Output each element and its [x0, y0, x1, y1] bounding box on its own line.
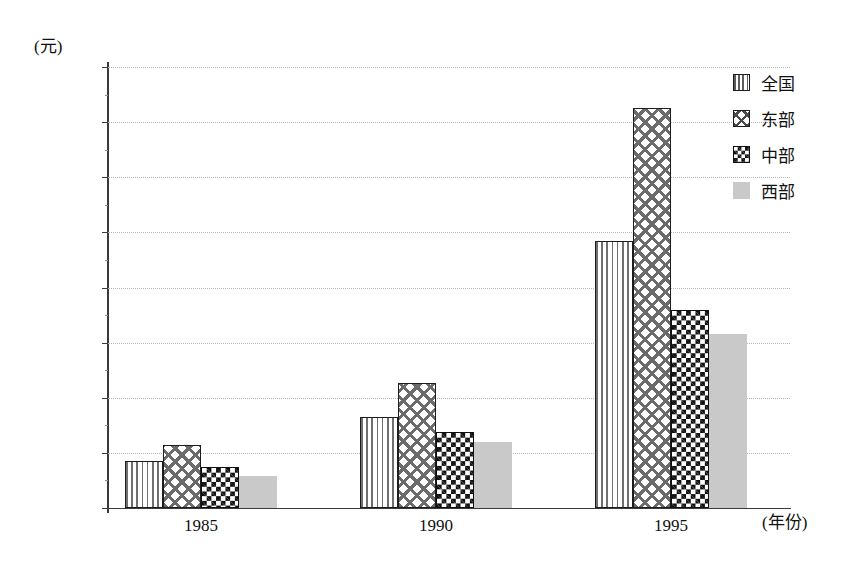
legend-item-东部: 东部 [733, 100, 853, 136]
gridline [108, 67, 790, 69]
x-axis-tick-label: 1990 [361, 516, 511, 536]
y-axis-minor-tick [105, 260, 109, 261]
y-axis-tick [102, 67, 108, 68]
y-axis-minor-tick [105, 95, 109, 96]
bar-东部-1990 [398, 383, 436, 508]
bar-东部-1995 [633, 108, 671, 508]
y-axis-minor-tick [105, 480, 109, 481]
legend-swatch-icon [733, 146, 750, 163]
bar-全国-1985 [125, 461, 163, 508]
legend-swatch-icon [733, 182, 750, 199]
legend-item-label: 全国 [761, 70, 795, 95]
gridline [108, 122, 790, 124]
plot-area: 010002000300040005000600070008000 [108, 67, 790, 508]
bar-chart: (元) (年份) 0100020003000400050006000700080… [0, 0, 856, 568]
legend-item-西部: 西部 [733, 172, 853, 208]
bar-西部-1995 [709, 334, 747, 508]
y-axis-tick [102, 453, 108, 454]
bar-西部-1990 [474, 442, 512, 508]
x-axis-tick-label: 1985 [126, 516, 276, 536]
y-axis-minor-tick [105, 150, 109, 151]
y-axis-tick [102, 288, 108, 289]
y-axis-minor-tick [105, 370, 109, 371]
y-axis-minor-tick [105, 425, 109, 426]
x-axis-tick-label: 1995 [596, 516, 746, 536]
y-axis-tick [102, 398, 108, 399]
bar-中部-1995 [671, 310, 709, 508]
bar-中部-1985 [201, 467, 239, 508]
bar-全国-1990 [360, 417, 398, 509]
legend-item-label: 中部 [761, 142, 795, 167]
legend-item-中部: 中部 [733, 136, 853, 172]
y-axis-unit-label: (元) [34, 32, 62, 57]
y-axis-minor-tick [105, 205, 109, 206]
gridline [108, 288, 790, 290]
bar-东部-1985 [163, 445, 201, 508]
y-axis-minor-tick [105, 315, 109, 316]
y-axis-tick [102, 232, 108, 233]
chart-legend: 全国东部中部西部 [733, 64, 853, 208]
y-axis-tick [102, 122, 108, 123]
x-axis-unit-label: (年份) [762, 508, 807, 533]
bar-全国-1995 [595, 241, 633, 508]
bar-西部-1985 [239, 476, 277, 508]
bar-中部-1990 [436, 432, 474, 508]
legend-item-label: 东部 [761, 106, 795, 131]
legend-swatch-icon [733, 74, 750, 91]
gridline [108, 177, 790, 179]
legend-swatch-icon [733, 110, 750, 127]
legend-item-全国: 全国 [733, 64, 853, 100]
y-axis-tick [102, 508, 108, 509]
gridline [108, 232, 790, 234]
y-axis-tick [102, 177, 108, 178]
legend-item-label: 西部 [761, 178, 795, 203]
y-axis-tick [102, 343, 108, 344]
